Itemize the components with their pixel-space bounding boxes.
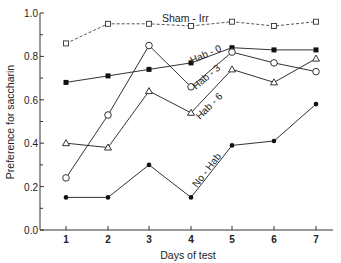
label-hab-0: Hab - 0 (188, 42, 223, 66)
y-tick-label: 1.0 (24, 8, 38, 19)
saccharin-preference-chart: 0.0 0.2 0.4 0.6 0.8 1.0 1 2 3 4 5 6 7 Da… (0, 0, 341, 263)
x-tick-label: 2 (105, 234, 111, 245)
x-tick-label: 3 (146, 234, 152, 245)
series-no-hab (64, 102, 319, 200)
label-hab-3: Hab - 3 (190, 62, 223, 92)
y-tick-label: 0.6 (24, 95, 38, 106)
y-tick-label: 0.4 (24, 138, 38, 149)
x-tick-label: 5 (229, 234, 235, 245)
series-hab-6 (63, 55, 320, 150)
y-tick-label: 0.2 (24, 182, 38, 193)
x-ticks (66, 226, 316, 230)
y-tick-label: 0.0 (24, 225, 38, 236)
x-tick-label: 6 (271, 234, 277, 245)
label-no-hab: No - Hab (190, 151, 224, 190)
x-tick-labels: 1 2 3 4 5 6 7 (63, 234, 319, 245)
label-hab-6: Hab - 6 (194, 90, 225, 121)
x-tick-label: 4 (188, 234, 194, 245)
x-tick-label: 1 (63, 234, 69, 245)
y-axis-title: Preference for saccharin (4, 65, 16, 180)
y-tick-label: 0.8 (24, 51, 38, 62)
x-axis-title: Days of test (160, 249, 216, 261)
x-tick-label: 7 (313, 234, 319, 245)
y-ticks (40, 13, 44, 230)
label-sham-irr: Sham - Irr (162, 12, 209, 24)
y-tick-labels: 0.0 0.2 0.4 0.6 0.8 1.0 (24, 8, 38, 236)
